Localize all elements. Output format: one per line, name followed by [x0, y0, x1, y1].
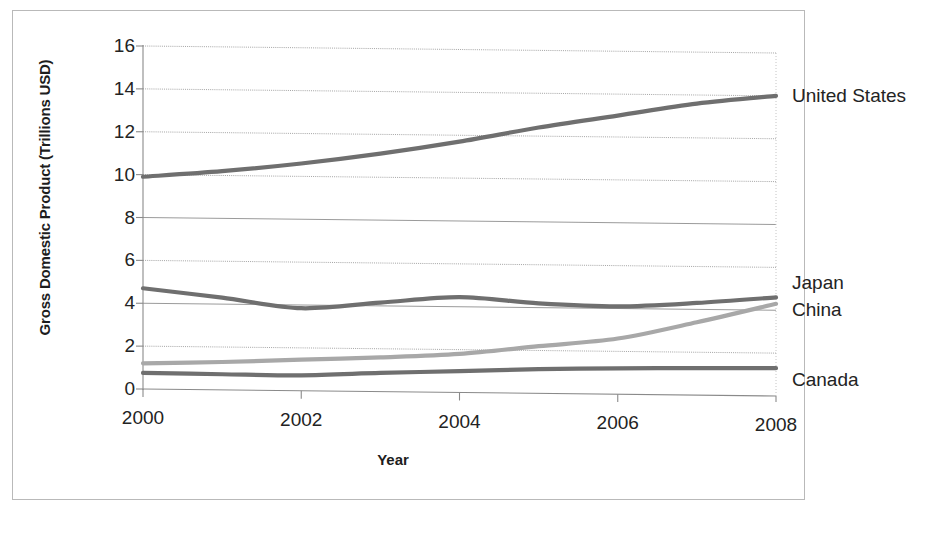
series-label-china: China — [792, 300, 842, 319]
series-end-labels: United StatesJapanChinaCanada — [13, 11, 806, 501]
series-label-japan: Japan — [792, 273, 844, 292]
figure-frame: Gross Domestic Product (Trillions USD) Y… — [12, 10, 805, 500]
series-label-united-states: United States — [792, 86, 906, 105]
series-label-canada: Canada — [792, 370, 859, 389]
